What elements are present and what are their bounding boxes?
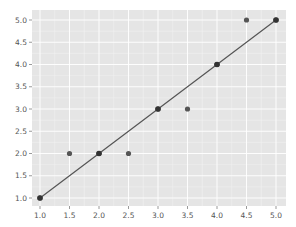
y-tick-label: 4.0 bbox=[15, 60, 27, 69]
x-tick-label: 2.0 bbox=[93, 211, 105, 220]
data-point bbox=[185, 106, 190, 111]
y-tick-label: 4.5 bbox=[15, 38, 27, 47]
x-tick-label: 3.0 bbox=[152, 211, 164, 220]
line-marker bbox=[96, 151, 102, 157]
y-tick-label: 2.0 bbox=[15, 149, 27, 158]
x-tick-label: 3.5 bbox=[182, 211, 194, 220]
line-marker bbox=[214, 62, 220, 68]
y-tick-label: 2.5 bbox=[15, 127, 27, 136]
y-axis: 1.01.52.02.53.03.54.04.55.0 bbox=[15, 16, 32, 203]
x-tick-label: 1.0 bbox=[34, 211, 46, 220]
data-point bbox=[126, 151, 131, 156]
line-marker bbox=[155, 106, 161, 112]
y-tick-label: 1.5 bbox=[15, 171, 27, 180]
data-point bbox=[67, 151, 72, 156]
y-tick-label: 5.0 bbox=[15, 16, 27, 25]
x-tick-label: 4.0 bbox=[211, 211, 223, 220]
line-marker bbox=[37, 195, 43, 201]
x-tick-label: 5.0 bbox=[270, 211, 282, 220]
data-point bbox=[244, 17, 249, 22]
x-tick-label: 1.5 bbox=[64, 211, 76, 220]
y-tick-label: 3.5 bbox=[15, 82, 27, 91]
y-tick-label: 1.0 bbox=[15, 194, 27, 203]
scatter-chart: 1.01.52.02.53.03.54.04.55.0 1.01.52.02.5… bbox=[0, 0, 296, 227]
x-tick-label: 4.5 bbox=[241, 211, 253, 220]
x-axis: 1.01.52.02.53.03.54.04.55.0 bbox=[34, 206, 282, 220]
line-marker bbox=[273, 17, 279, 23]
y-tick-label: 3.0 bbox=[15, 105, 27, 114]
x-tick-label: 2.5 bbox=[123, 211, 135, 220]
